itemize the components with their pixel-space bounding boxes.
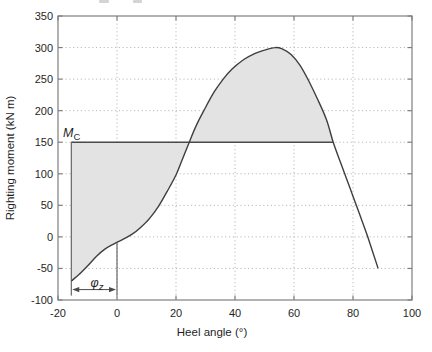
figure-canvas: -20020406080100-100-50050100150200250300… <box>0 0 432 352</box>
arrowhead-right <box>109 287 116 292</box>
y-tick-label: 200 <box>35 105 53 117</box>
y-tick-label: 0 <box>47 231 53 243</box>
x-tick-label: 0 <box>114 307 120 319</box>
x-tick-label: -20 <box>50 307 66 319</box>
y-tick-label: 300 <box>35 42 53 54</box>
mc-annotation: MC <box>63 126 80 142</box>
y-tick-label: 100 <box>35 168 53 180</box>
y-tick-label: 250 <box>35 73 53 85</box>
y-tick-label: -100 <box>31 294 53 306</box>
y-tick-label: 50 <box>41 199 53 211</box>
x-axis-title: Heel angle (°) <box>177 326 248 338</box>
y-axis-title: Righting moment (kN m) <box>4 96 16 221</box>
x-tick-label: 20 <box>170 307 182 319</box>
x-tick-label: 80 <box>347 307 359 319</box>
x-tick-label: 60 <box>288 307 300 319</box>
x-tick-label: 40 <box>229 307 241 319</box>
x-tick-label: 100 <box>403 307 421 319</box>
arrowhead-left <box>72 287 79 292</box>
y-tick-label: 350 <box>35 10 53 22</box>
y-tick-label: 150 <box>35 136 53 148</box>
y-tick-label: -50 <box>37 262 53 274</box>
phi-z-annotation: φz <box>90 276 103 292</box>
righting-moment-chart: -20020406080100-100-50050100150200250300… <box>0 0 432 352</box>
